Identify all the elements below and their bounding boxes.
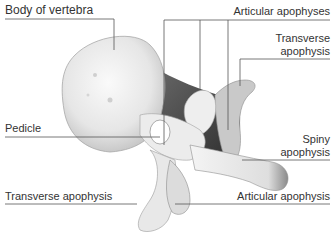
label-transverse-apophysis-top-line1: Transverse — [275, 32, 330, 44]
label-articular-apophysis-bottom: Articular apophysis — [237, 190, 330, 202]
articular-apophysis-lower-shape — [166, 160, 190, 214]
label-transverse-apophysis-top-line2: apophysis — [280, 45, 330, 57]
label-pedicle: Pedicle — [5, 122, 41, 134]
label-articular-apophyses: Articular apophyses — [233, 5, 330, 17]
label-spiny-apophysis-line1: Spiny — [302, 133, 330, 145]
leader-transverse-top — [240, 59, 330, 86]
label-body-of-vertebra: Body of vertebra — [5, 4, 93, 16]
label-spiny-apophysis-line2: apophysis — [280, 146, 330, 158]
label-transverse-apophysis-bottom: Transverse apophysis — [5, 190, 112, 202]
